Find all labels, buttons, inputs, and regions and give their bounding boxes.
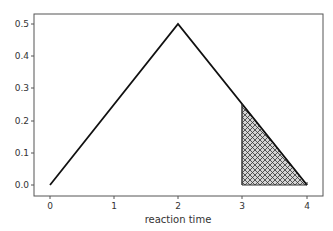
svg-text:3: 3 <box>239 201 245 211</box>
y-ticks: 0.0 0.1 0.2 0.3 0.4 0.5 <box>15 19 34 190</box>
chart: 0 1 2 3 4 0.0 0.1 0.2 0.3 0.4 0.5 reacti… <box>0 0 333 231</box>
svg-text:0.3: 0.3 <box>15 83 29 93</box>
svg-text:4: 4 <box>304 201 310 211</box>
x-axis-label: reaction time <box>145 214 212 225</box>
svg-text:0.2: 0.2 <box>15 116 29 126</box>
x-ticks: 0 1 2 3 4 <box>47 196 310 211</box>
svg-text:0.0: 0.0 <box>15 180 30 190</box>
svg-text:1: 1 <box>111 201 117 211</box>
svg-text:0.5: 0.5 <box>15 19 29 29</box>
svg-text:0.4: 0.4 <box>15 51 30 61</box>
svg-text:2: 2 <box>175 201 181 211</box>
svg-text:0.1: 0.1 <box>15 148 29 158</box>
svg-text:0: 0 <box>47 201 53 211</box>
